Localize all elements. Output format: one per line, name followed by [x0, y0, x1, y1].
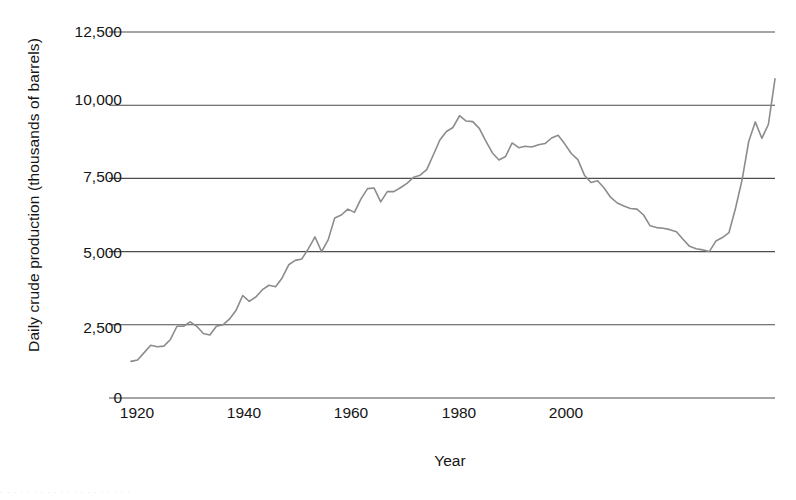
- y-axis-title: Daily crude production (thousands of bar…: [25, 0, 43, 395]
- y-tick-label-12500: 12,500: [48, 23, 122, 41]
- x-axis-title: Year: [120, 452, 780, 470]
- x-tick-label-1920: 1920: [120, 404, 154, 422]
- x-tick-label-1960: 1960: [334, 404, 368, 422]
- y-tick-label-7500: 7,500: [48, 168, 122, 186]
- chart-figure: Daily crude production (thousands of bar…: [0, 0, 796, 500]
- y-tick-label-0: 0: [48, 389, 122, 407]
- y-tick-label-5000: 5,000: [48, 244, 122, 262]
- y-tick-label-10000: 10,000: [48, 91, 122, 109]
- data-line-crude-production: [131, 79, 775, 362]
- gridlines: [109, 32, 775, 398]
- x-tick-label-1940: 1940: [227, 404, 261, 422]
- y-tick-label-2500: 2,500: [48, 319, 122, 337]
- x-tick-label-2000: 2000: [549, 404, 583, 422]
- page-caption-fragment: · · · · · · · · · · · · · · · · · · · ·: [0, 487, 796, 496]
- y-axis-tick-labels: 12,500 10,000 7,500 5,000 2,500 0: [48, 0, 122, 500]
- x-tick-label-1980: 1980: [442, 404, 476, 422]
